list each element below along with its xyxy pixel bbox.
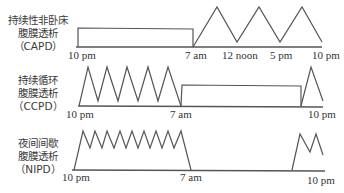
ccpd-tick-10pm-end: 10 pm [308,108,336,120]
nipd-tick-10pm-end: 10 pm [307,174,335,186]
nipd-waveform [72,131,325,171]
ccpd-night-cycles [79,67,181,106]
capd-tick-10pm-start: 10 pm [68,49,96,61]
capd-exchange-zigzag [193,7,322,47]
capd-tick-12noon: 12 noon [222,49,258,61]
ccpd-tick-10pm-start: 10 pm [66,108,94,120]
ccpd-evening-cycle [301,67,323,106]
nipd-tick-10pm-start: 10 pm [62,171,90,183]
capd-tick-5pm: 5 pm [270,49,292,61]
dialysis-schedule-diagram [0,0,344,193]
capd-tick-10pm-end: 10 pm [312,49,340,61]
ccpd-baseline [78,106,323,107]
nipd-evening-cycles [292,134,323,170]
capd-dwell-rectangle [78,28,193,47]
nipd-tick-7am: 7 am [180,171,202,183]
capd-tick-7am: 7 am [185,49,207,61]
nipd-night-cycles [74,131,191,170]
capd-waveform [76,7,322,47]
ccpd-waveform [78,67,323,107]
ccpd-day-dwell-rectangle [181,85,301,106]
ccpd-tick-7am: 7 am [170,108,192,120]
